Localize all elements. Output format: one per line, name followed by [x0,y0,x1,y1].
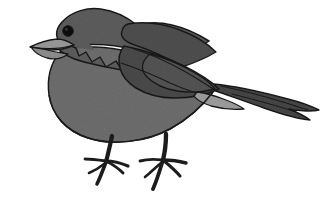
illustration-canvas: Perched songbird illustration bird grays… [0,0,333,206]
bird-illustration [0,0,333,206]
eye-highlight-icon [65,28,68,31]
eye [63,26,74,37]
